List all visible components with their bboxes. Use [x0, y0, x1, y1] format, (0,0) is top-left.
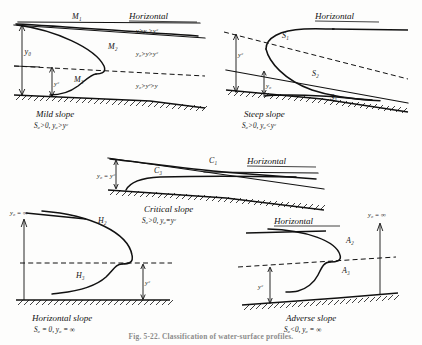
horizontal-underline: [247, 166, 316, 167]
label-yc: yᶜ: [53, 80, 60, 87]
label-horizontal: Horizontal: [246, 156, 287, 166]
horizontal-asymptote: [246, 231, 326, 233]
panel-title: Horizontal slope: [31, 313, 92, 323]
dimension-y0: [14, 25, 40, 95]
horizontal-underline: [129, 21, 197, 22]
panel-title: Adverse slope: [285, 313, 336, 323]
label-horizontal: Horizontal: [128, 11, 169, 21]
label-y0-infinity: y₀ = ∞: [9, 209, 28, 216]
curve-label-A2: A₂: [345, 236, 354, 245]
horizontal-asymptote: [332, 29, 408, 30]
curve-label-S3: S₃: [330, 93, 337, 102]
curve-label-M2: M₂: [107, 42, 118, 51]
panel-title: Steep slope: [244, 109, 285, 119]
label-yc: yᶜ: [257, 283, 264, 290]
normal-depth-line: [14, 25, 205, 38]
label-y0-equals-yc: y₀ = yᶜ: [96, 172, 116, 179]
panel-horizontal-slope: y₀ = ∞ yᶜ H₂ H₃ Horizontal slope S₀ = 0,…: [2, 205, 202, 343]
horizontal-asymptote: [18, 22, 200, 23]
curve-S2: [266, 49, 372, 100]
label-yc: yᶜ: [144, 279, 151, 286]
curve-H2: [42, 211, 132, 264]
curve-label-S1: S₁: [282, 31, 289, 40]
zone-inequality-1: y>y₀>yᶜ: [135, 27, 159, 34]
dimension-y0-infinite: [21, 219, 27, 300]
zone-inequality-3: y₀>yᶜ>y: [135, 82, 158, 89]
curve-S1: [266, 29, 334, 49]
curve-label-S2: S₂: [312, 69, 319, 78]
curve-label-C3: C₃: [154, 166, 162, 175]
label-y0-infinity: y₀ = ∞: [367, 211, 386, 218]
curve-C3: [126, 176, 296, 190]
panel-adverse-slope: y₀ = ∞ yᶜ Horizontal A₂ A₃ Adverse slope…: [228, 205, 422, 343]
curve-label-H3: H₃: [75, 271, 85, 280]
horizontal-underline: [315, 21, 379, 22]
curve-label-C1: C₁: [209, 156, 217, 165]
curve-A3: [286, 262, 330, 292]
critical-depth-line: [14, 66, 205, 76]
curve-H3: [52, 264, 122, 294]
critical-depth-line: [238, 257, 396, 267]
panel-condition: S₀>0, y₀<yᶜ: [242, 122, 277, 130]
figure-canvas: y₀ yᶜ Horizontal M₁ M₂ M₃ y>y₀>yᶜ y₀>y>y…: [0, 0, 422, 345]
label-horizontal: Horizontal: [273, 216, 314, 226]
panel-title: Mild slope: [35, 109, 74, 119]
label-y0: y₀: [265, 82, 272, 89]
dimension-yc: [268, 267, 272, 304]
curve-label-H2: H₂: [97, 216, 107, 225]
channel-bed: [14, 95, 205, 108]
channel-bed: [242, 293, 398, 305]
zone-inequality-2: y₀>y>yᶜ: [135, 50, 159, 57]
curve-label-M1: M₁: [71, 12, 82, 21]
dimension-yc: [233, 34, 238, 93]
curve-label-M3: M₃: [73, 75, 84, 84]
label-horizontal: Horizontal: [314, 11, 355, 21]
panel-condition: S₀>0, y₀>yᶜ: [34, 122, 69, 130]
label-y0: y₀: [24, 47, 32, 56]
label-yc: yᶜ: [237, 51, 244, 58]
curve-A2: [268, 229, 340, 262]
panel-mild-slope: y₀ yᶜ Horizontal M₁ M₂ M₃ y>y₀>yᶜ y₀>y>y…: [0, 0, 212, 135]
panel-steep-slope: yᶜ y₀ Horizontal S₁ S₂ S₃ Steep slope S₀…: [212, 0, 422, 135]
figure-caption: Fig. 5-22. Classification of water-surfa…: [0, 332, 422, 341]
curve-label-A3: A₃: [341, 266, 350, 275]
